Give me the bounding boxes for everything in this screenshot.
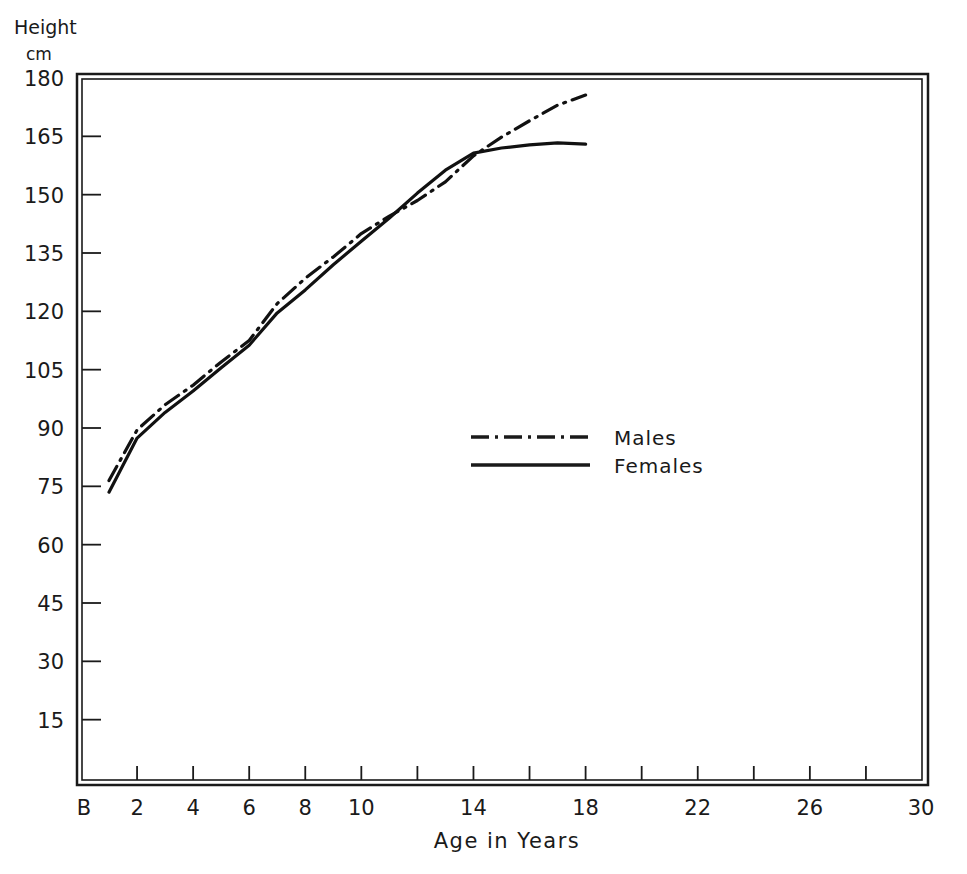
y-tick-label: 165: [24, 125, 64, 149]
y-axis-title: Height: [14, 16, 77, 38]
x-tick-label: B: [77, 796, 91, 820]
y-tick-label: 105: [24, 359, 64, 383]
plot-frame: [77, 74, 928, 785]
y-axis-ticks: 153045607590105120135150165180: [24, 67, 101, 733]
y-axis-unit: cm: [26, 44, 52, 64]
y-tick-label: 180: [24, 67, 64, 91]
legend-females-label: Females: [614, 454, 704, 478]
growth-chart: Height cm 153045607590105120135150165180…: [0, 0, 967, 874]
x-axis-ticks: B2468101418222630: [77, 766, 935, 820]
y-tick-label: 75: [37, 475, 64, 499]
x-tick-label: 26: [796, 796, 823, 820]
y-tick-label: 120: [24, 300, 64, 324]
y-tick-label: 30: [37, 650, 64, 674]
series-males-line: [109, 95, 586, 480]
legend: Males Females: [471, 426, 704, 478]
x-tick-label: 18: [572, 796, 599, 820]
y-tick-label: 45: [37, 592, 64, 616]
y-tick-label: 15: [37, 709, 64, 733]
y-tick-label: 60: [37, 534, 64, 558]
data-series: [109, 95, 586, 492]
x-tick-label: 30: [908, 796, 935, 820]
y-tick-label: 150: [24, 184, 64, 208]
y-tick-label: 90: [37, 417, 64, 441]
x-tick-label: 8: [299, 796, 312, 820]
x-tick-label: 22: [684, 796, 711, 820]
y-tick-label: 135: [24, 242, 64, 266]
series-females-line: [109, 143, 586, 492]
x-tick-label: 14: [460, 796, 487, 820]
x-tick-label: 10: [348, 796, 375, 820]
legend-males-label: Males: [614, 426, 677, 450]
x-axis-title: Age in Years: [434, 829, 581, 853]
x-tick-label: 6: [243, 796, 256, 820]
x-tick-label: 2: [130, 796, 143, 820]
x-tick-label: 4: [186, 796, 199, 820]
